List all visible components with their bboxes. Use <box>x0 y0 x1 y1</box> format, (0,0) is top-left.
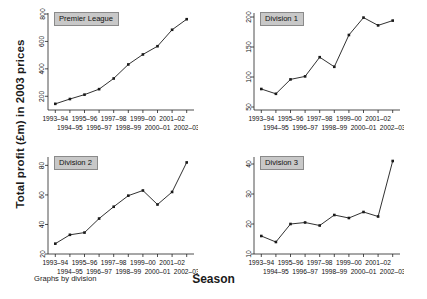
panel-division-2: 204060801993–941994–951995–961996–971997… <box>22 152 198 284</box>
data-point <box>289 223 292 226</box>
x-tick-label: 1995–96 <box>278 115 304 122</box>
data-point <box>54 103 57 106</box>
x-tick-label: 2000–01 <box>351 268 377 275</box>
y-tick-label: 60 <box>39 191 46 199</box>
panel-premier-league: 2004006008001993–941994–951995–961996–97… <box>22 8 198 140</box>
x-tick-label: 2001–02 <box>159 259 185 266</box>
data-point <box>142 53 145 56</box>
x-tick-label: 1993–94 <box>42 259 68 266</box>
data-point <box>362 211 365 214</box>
x-tick-label: 1997–98 <box>101 259 127 266</box>
panel-title: Division 2 <box>54 156 98 170</box>
data-point <box>98 88 101 91</box>
series-line <box>55 162 186 243</box>
data-point <box>275 93 278 96</box>
panel-title: Division 1 <box>260 12 304 26</box>
x-tick-label: 2000–01 <box>145 268 171 275</box>
x-tick-label: 1994–95 <box>57 124 83 131</box>
x-tick-label: 2000–01 <box>351 124 377 131</box>
x-tick-label: 1999–00 <box>130 259 156 266</box>
y-tick-label: 150 <box>245 41 252 53</box>
y-tick-label: 80 <box>39 161 46 169</box>
data-point <box>391 19 394 22</box>
x-tick-label: 2001–02 <box>365 115 391 122</box>
x-tick-label: 1993–94 <box>42 115 68 122</box>
x-tick-label: 1998–99 <box>115 268 141 275</box>
data-point <box>142 189 145 192</box>
x-tick-label: 1996–97 <box>86 268 112 275</box>
data-point <box>333 214 336 217</box>
x-tick-label: 1997–98 <box>101 115 127 122</box>
y-tick-label: 200 <box>245 11 252 23</box>
x-tick-label: 2002–03 <box>174 124 198 131</box>
data-point <box>348 34 351 37</box>
series-line <box>261 161 392 242</box>
x-tick-label: 1994–95 <box>263 124 289 131</box>
y-tick-label: 200 <box>39 90 46 102</box>
data-point <box>69 98 72 101</box>
data-point <box>171 28 174 31</box>
data-point <box>127 194 130 197</box>
x-tick-label: 2002–03 <box>174 268 198 275</box>
plot-area: 204060801993–941994–951995–961996–971997… <box>22 152 198 284</box>
y-tick-label: 400 <box>39 63 46 75</box>
x-tick-label: 2002–03 <box>380 124 404 131</box>
x-tick-label: 1998–99 <box>321 124 347 131</box>
x-tick-label: 1996–97 <box>292 124 318 131</box>
data-point <box>185 161 188 164</box>
panel-division-1: 501001502001993–941994–951995–961996–971… <box>228 8 404 140</box>
data-point <box>333 66 336 69</box>
panel-title: Division 3 <box>260 156 304 170</box>
x-tick-label: 1997–98 <box>307 115 333 122</box>
data-point <box>362 16 365 19</box>
x-tick-label: 1994–95 <box>57 268 83 275</box>
y-tick-label: 20 <box>39 250 46 258</box>
data-point <box>377 24 380 27</box>
x-tick-label: 1998–99 <box>115 124 141 131</box>
x-tick-label: 1997–98 <box>307 259 333 266</box>
x-tick-label: 1999–00 <box>130 115 156 122</box>
data-point <box>83 231 86 234</box>
x-tick-label: 2002–03 <box>380 268 404 275</box>
x-tick-label: 1999–00 <box>336 115 362 122</box>
plot-area: 2004006008001993–941994–951995–961996–97… <box>22 8 198 140</box>
y-tick-label: 40 <box>245 160 252 168</box>
y-tick-label: 40 <box>39 220 46 228</box>
series-line <box>261 18 392 94</box>
data-point <box>348 217 351 220</box>
plot-area: 501001502001993–941994–951995–961996–971… <box>228 8 404 140</box>
x-tick-label: 1996–97 <box>86 124 112 131</box>
panel-division-3: 102030401993–941994–951995–961996–971997… <box>228 152 404 284</box>
series-line <box>55 19 186 104</box>
data-point <box>275 241 278 244</box>
x-tick-label: 1993–94 <box>248 259 274 266</box>
x-tick-label: 1993–94 <box>248 115 274 122</box>
x-tick-label: 1996–97 <box>292 268 318 275</box>
data-point <box>185 18 188 21</box>
y-tick-label: 600 <box>39 36 46 48</box>
y-tick-label: 30 <box>245 190 252 198</box>
data-point <box>304 221 307 224</box>
x-tick-label: 1998–99 <box>321 268 347 275</box>
data-point <box>112 77 115 80</box>
data-point <box>260 88 263 91</box>
x-tick-label: 2001–02 <box>159 115 185 122</box>
plot-area: 102030401993–941994–951995–961996–971997… <box>228 152 404 284</box>
data-point <box>156 203 159 206</box>
data-point <box>54 242 57 245</box>
data-point <box>127 63 130 66</box>
data-point <box>304 75 307 78</box>
data-point <box>260 235 263 238</box>
y-tick-label: 20 <box>245 220 252 228</box>
data-point <box>318 224 321 227</box>
data-point <box>83 93 86 96</box>
x-tick-label: 2001–02 <box>365 259 391 266</box>
data-point <box>156 45 159 48</box>
x-tick-label: 1995–96 <box>72 259 98 266</box>
y-tick-label: 100 <box>245 71 252 83</box>
data-point <box>112 205 115 208</box>
y-tick-label: 50 <box>245 103 252 111</box>
figure-canvas: Total profit (£m) in 2003 prices Season … <box>0 0 427 299</box>
data-point <box>289 78 292 81</box>
data-point <box>377 215 380 218</box>
